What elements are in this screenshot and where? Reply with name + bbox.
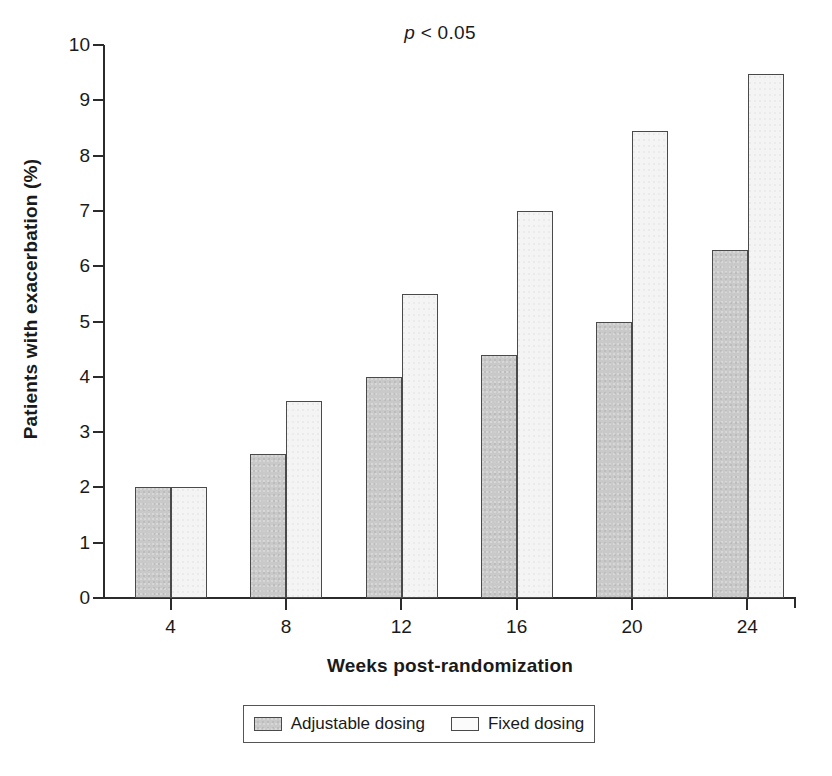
bar-adjustable-dosing-week-12 bbox=[366, 377, 402, 598]
legend-entry-adjustable-dosing: Adjustable dosing bbox=[254, 714, 425, 734]
x-axis-tick bbox=[285, 599, 287, 610]
y-axis-tick bbox=[93, 99, 104, 101]
bar-fixed-dosing-week-20 bbox=[632, 131, 668, 598]
y-axis-tick bbox=[93, 597, 104, 599]
bar-fixed-dosing-week-24 bbox=[748, 74, 784, 598]
y-axis-tick bbox=[93, 265, 104, 267]
bar-fixed-dosing-week-4 bbox=[171, 487, 207, 598]
legend-label: Fixed dosing bbox=[488, 714, 584, 734]
x-axis-end-tick bbox=[794, 597, 796, 608]
p-value-annotation: p < 0.05 bbox=[360, 22, 520, 44]
chart-figure: p < 0.05 Patients with exacerbation (%) … bbox=[0, 0, 832, 776]
y-axis-tick bbox=[93, 210, 104, 212]
x-axis-tick bbox=[746, 599, 748, 610]
y-axis-tick bbox=[93, 321, 104, 323]
y-axis-tick-label: 5 bbox=[48, 312, 90, 331]
x-axis-tick bbox=[400, 599, 402, 610]
white-swatch bbox=[451, 717, 479, 731]
bar-fixed-dosing-week-8 bbox=[286, 401, 322, 598]
x-axis-tick-label: 24 bbox=[717, 617, 777, 636]
y-axis-tick-label: 3 bbox=[48, 422, 90, 441]
y-axis-tick-label: 7 bbox=[48, 201, 90, 220]
x-axis-tick bbox=[516, 599, 518, 610]
y-axis-tick-label: 6 bbox=[48, 256, 90, 275]
y-axis-tick bbox=[93, 431, 104, 433]
bar-adjustable-dosing-week-16 bbox=[481, 355, 517, 598]
p-value-symbol: p bbox=[404, 22, 415, 43]
x-axis-tick-label: 16 bbox=[487, 617, 547, 636]
y-axis-tick-label: 9 bbox=[48, 90, 90, 109]
y-axis-tick-label: 8 bbox=[48, 146, 90, 165]
x-axis-tick-label: 20 bbox=[602, 617, 662, 636]
y-axis-tick-label: 2 bbox=[48, 477, 90, 496]
bar-fixed-dosing-week-16 bbox=[517, 211, 553, 598]
y-axis-tick bbox=[93, 376, 104, 378]
y-axis-tick bbox=[93, 542, 104, 544]
p-value-threshold: < 0.05 bbox=[415, 22, 476, 43]
x-axis-tick bbox=[170, 599, 172, 610]
y-axis-tick bbox=[93, 486, 104, 488]
bar-adjustable-dosing-week-4 bbox=[135, 487, 171, 598]
gray-stipple-swatch bbox=[254, 717, 282, 731]
legend-label: Adjustable dosing bbox=[291, 714, 425, 734]
x-axis-tick bbox=[631, 599, 633, 610]
x-axis-tick-label: 4 bbox=[141, 617, 201, 636]
y-axis-tick bbox=[93, 155, 104, 157]
legend-entry-fixed-dosing: Fixed dosing bbox=[451, 714, 584, 734]
x-axis-title: Weeks post-randomization bbox=[104, 655, 796, 677]
y-axis-tick-label: 10 bbox=[48, 35, 90, 54]
x-axis-line bbox=[104, 597, 796, 599]
y-axis-tick bbox=[93, 44, 104, 46]
chart-legend: Adjustable dosingFixed dosing bbox=[243, 705, 595, 743]
x-axis-tick-label: 12 bbox=[371, 617, 431, 636]
x-axis-tick-label: 8 bbox=[256, 617, 316, 636]
bar-adjustable-dosing-week-8 bbox=[250, 454, 286, 598]
bar-fixed-dosing-week-12 bbox=[402, 294, 438, 598]
y-axis-tick-label: 0 bbox=[48, 588, 90, 607]
bar-adjustable-dosing-week-24 bbox=[712, 250, 748, 598]
bar-adjustable-dosing-week-20 bbox=[596, 322, 632, 599]
y-axis-title: Patients with exacerbation (%) bbox=[14, 0, 48, 598]
y-axis-tick-label: 1 bbox=[48, 533, 90, 552]
y-axis-tick-label: 4 bbox=[48, 367, 90, 386]
